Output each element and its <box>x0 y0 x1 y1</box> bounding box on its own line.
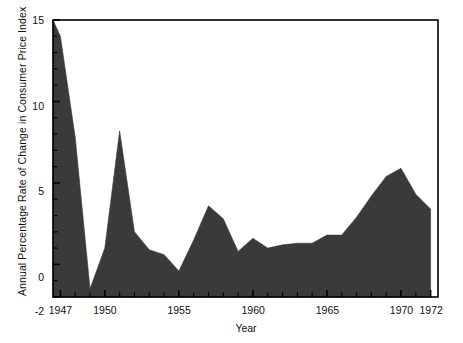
area-series <box>53 20 431 297</box>
chart-figure: Annual Percentage Rate of Change in Cons… <box>0 0 463 343</box>
area-path <box>53 20 431 297</box>
chart-plot-area <box>0 0 463 343</box>
